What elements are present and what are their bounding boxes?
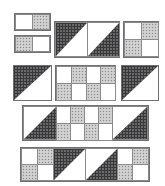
block-half-square-triangle-left[interactable] <box>13 65 52 101</box>
patch-white-r2c2 <box>71 83 87 101</box>
patch-gray <box>15 36 33 52</box>
patch-gray-r1c4 <box>100 66 116 84</box>
patch-white-r1c1 <box>56 106 71 124</box>
patch-gray-tr <box>141 22 159 40</box>
hst-unit-top-left <box>55 22 88 57</box>
triangle-dark-top-left <box>56 23 87 56</box>
triangle-dark-bottom-right <box>24 107 56 139</box>
patch-white-r1c3 <box>84 106 99 124</box>
block-two-patch-white-gray[interactable] <box>14 13 51 31</box>
patch-white <box>32 36 50 52</box>
block-long-strip-triangles-and-checker[interactable] <box>22 105 149 141</box>
patch-white-right-tl <box>117 148 133 165</box>
hst-unit-left <box>23 106 57 140</box>
triangle-dark-bottom-right <box>86 149 117 180</box>
patch-gray-left-bl <box>21 164 38 181</box>
hst-unit <box>14 66 51 100</box>
patch-white-right-br <box>132 164 149 181</box>
patch-gray-r1c2 <box>70 106 85 124</box>
block-eight-patch-checkerboard[interactable] <box>55 65 116 101</box>
patch-gray-r2c1 <box>56 83 72 101</box>
hst-unit-center-right <box>85 148 118 181</box>
triangle-dark-top-left <box>14 66 51 100</box>
patch-gray-left-tr <box>37 148 54 165</box>
block-long-strip-fourpatch-and-triangles[interactable] <box>20 147 150 182</box>
patch-gray-r1c4 <box>98 106 113 124</box>
hst-unit-bottom-right <box>87 22 120 57</box>
triangle-dark-bottom-right <box>88 23 119 56</box>
patch-white-br <box>141 39 159 57</box>
triangle-dark-top-left <box>54 149 85 180</box>
patch-white <box>15 14 33 30</box>
block-half-square-triangle-right[interactable] <box>121 65 159 101</box>
block-four-patch-checker[interactable] <box>123 21 159 58</box>
patch-gray-r2c3 <box>84 123 99 141</box>
patch-gray-bl <box>124 39 142 57</box>
patch-white-r2c4 <box>98 123 113 141</box>
patch-gray-r1c2 <box>71 66 87 84</box>
triangle-dark-top-left <box>122 66 158 100</box>
hst-unit-center-left <box>53 148 86 181</box>
triangle-dark-bottom-right <box>113 107 147 139</box>
patch-white-r2c2 <box>70 123 85 141</box>
block-two-patch-gray-white[interactable] <box>14 35 51 53</box>
patch-gray <box>32 14 50 30</box>
patch-gray-right-tr <box>132 148 149 165</box>
patch-white-r1c1 <box>56 66 72 84</box>
hst-unit-right <box>112 106 148 140</box>
patch-gray-r2c1 <box>56 123 71 141</box>
patch-white-left-tl <box>21 148 38 165</box>
patch-white-r2c4 <box>100 83 116 101</box>
patch-white-tl <box>124 22 142 40</box>
block-double-half-square-triangle-bar[interactable] <box>54 21 120 58</box>
hst-unit <box>122 66 158 100</box>
patch-white-left-br <box>37 164 54 181</box>
patch-gray-right-bl <box>117 164 133 181</box>
quilt-diagram-canvas <box>0 0 165 186</box>
